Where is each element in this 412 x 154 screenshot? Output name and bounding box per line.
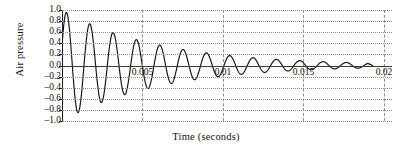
horizontal-gridline <box>62 99 392 100</box>
x-tick-label: 0.01 <box>215 68 232 78</box>
horizontal-gridline <box>62 121 392 122</box>
x-axis-label: Time (seconds) <box>0 131 412 142</box>
x-tick-label: 0.02 <box>376 68 393 78</box>
horizontal-gridline <box>62 43 392 44</box>
horizontal-gridline <box>62 10 392 11</box>
horizontal-gridline <box>62 88 392 89</box>
horizontal-gridline <box>62 110 392 111</box>
horizontal-gridline <box>62 54 392 55</box>
chart-figure: Air pressure 1.00.80.60.40.20.0–0.2–0.4–… <box>0 0 412 154</box>
x-tick-label: 0.005 <box>132 68 153 78</box>
horizontal-gridline <box>62 21 392 22</box>
y-axis-label: Air pressure <box>14 5 25 95</box>
plot-area: 0.0050.010.0150.02 <box>62 10 392 121</box>
horizontal-gridline <box>62 32 392 33</box>
x-tick-label: 0.015 <box>293 68 314 78</box>
